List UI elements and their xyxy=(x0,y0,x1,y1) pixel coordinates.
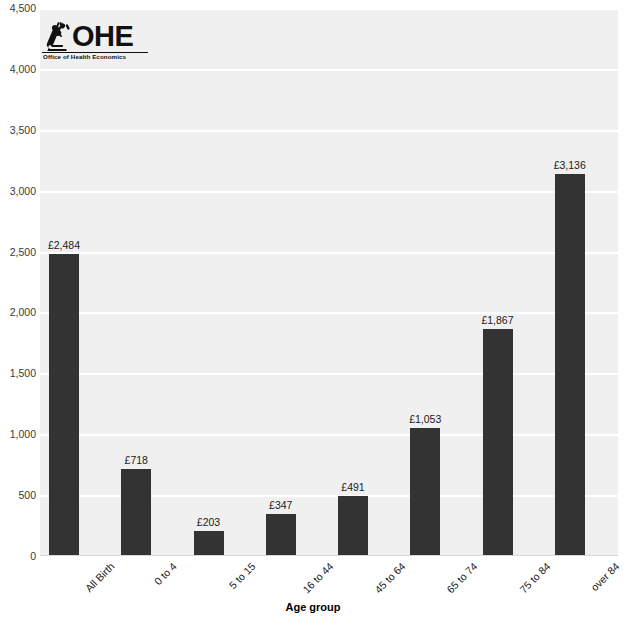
bar-value-label: £203 xyxy=(197,516,220,528)
bar-value-label: £3,136 xyxy=(554,159,586,171)
x-axis-tick-label: 16 to 44 xyxy=(300,560,335,595)
bar-value-label: £491 xyxy=(341,481,364,493)
bar-chart: 05001,0001,5002,0002,5003,0003,5004,0004… xyxy=(0,0,626,629)
x-axis-tick-label: All Birth xyxy=(83,560,117,594)
bar[interactable] xyxy=(194,531,224,556)
bar[interactable] xyxy=(483,329,513,556)
bar[interactable] xyxy=(266,514,296,556)
x-axis-tick-label: 65 to 74 xyxy=(444,560,479,595)
bar[interactable] xyxy=(555,174,585,556)
bar-value-label: £1,053 xyxy=(409,413,441,425)
bar-value-label: £718 xyxy=(125,454,148,466)
gridline xyxy=(40,69,618,71)
gridline xyxy=(40,312,618,314)
y-axis-tick-label: 2,000 xyxy=(0,306,36,318)
y-axis-tick-label: 3,000 xyxy=(0,185,36,197)
x-axis-tick-label: 45 to 64 xyxy=(372,560,407,595)
y-axis-tick-label: 500 xyxy=(0,489,36,501)
y-axis-tick-label: 4,500 xyxy=(0,2,36,14)
gridline xyxy=(40,434,618,436)
x-axis-tick-label: 5 to 15 xyxy=(226,560,257,591)
bar[interactable] xyxy=(121,469,151,556)
ohe-logo: OHE Office of Health Economics xyxy=(42,22,150,64)
y-axis-tick-label: 0 xyxy=(0,550,36,562)
y-axis-tick-label: 3,500 xyxy=(0,124,36,136)
x-axis-tick-label: 75 to 84 xyxy=(517,560,552,595)
x-axis-tick-label: over 84 xyxy=(588,560,621,593)
x-axis-tick-label: 0 to 4 xyxy=(152,560,179,587)
y-axis: 05001,0001,5002,0002,5003,0003,5004,0004… xyxy=(0,0,36,629)
y-axis-tick-label: 1,000 xyxy=(0,428,36,440)
bar-value-label: £2,484 xyxy=(48,239,80,251)
y-axis-tick-label: 1,500 xyxy=(0,367,36,379)
bar-value-label: £1,867 xyxy=(481,314,513,326)
bar-value-label: £347 xyxy=(269,499,292,511)
bar[interactable] xyxy=(338,496,368,556)
bar[interactable] xyxy=(49,254,79,556)
gridline xyxy=(40,8,618,10)
gridline xyxy=(40,373,618,375)
x-axis-line xyxy=(40,555,618,556)
ohe-subtitle: Office of Health Economics xyxy=(43,53,126,60)
gridline xyxy=(40,130,618,132)
bar[interactable] xyxy=(410,428,440,556)
y-axis-tick-label: 2,500 xyxy=(0,246,36,258)
ohe-wordmark: OHE xyxy=(72,20,133,53)
gridline xyxy=(40,252,618,254)
plot-area xyxy=(40,8,618,556)
gridline xyxy=(40,191,618,193)
microscope-icon xyxy=(42,22,76,54)
y-axis-tick-label: 4,000 xyxy=(0,63,36,75)
x-axis-title: Age group xyxy=(0,601,626,613)
